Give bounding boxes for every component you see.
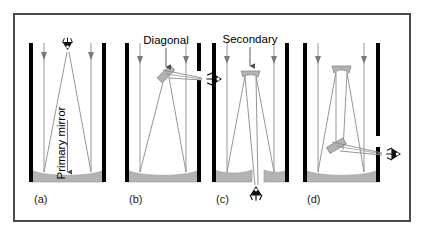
- incoming-ray-arrowhead-a-2: [88, 52, 94, 60]
- incoming-ray-arrowhead-b-1: [137, 56, 143, 64]
- tube-wall-left-d: [303, 43, 307, 182]
- converging-ray-c-left: [227, 76, 245, 172]
- incoming-ray-arrowhead-a-1: [41, 52, 47, 60]
- panel-c-cassegrain-focus: Secondary (c): [212, 33, 289, 205]
- converging-ray-b-right: [168, 72, 186, 172]
- tube-wall-right-upper-b: [197, 43, 201, 71]
- primary-mirror-label: Primary mirror: [55, 106, 67, 179]
- secondary-mirror-c: [241, 71, 260, 77]
- converging-ray-d-left: [318, 72, 336, 172]
- primary-mirror-b: [127, 170, 199, 182]
- reflected-ray-c-right: [256, 77, 258, 185]
- primary-mirror-c-right: [264, 170, 288, 182]
- tube-wall-right-c: [285, 43, 289, 182]
- incoming-ray-arrowhead-d-1: [315, 56, 321, 64]
- incoming-ray-arrowhead-d-2: [361, 56, 367, 64]
- incoming-ray-arrowhead-c-1: [224, 56, 230, 64]
- eye-icon-a: [63, 38, 73, 50]
- panel-a-prime-focus: Primary mirror (a): [29, 38, 106, 205]
- diagram-canvas: Primary mirror (a): [0, 0, 425, 236]
- panel-b-newtonian-focus: Diagonal (b): [125, 34, 222, 205]
- panel-d-coude-focus: (d): [303, 43, 401, 205]
- reflected-ray-c-left: [245, 77, 255, 185]
- tube-wall-left-a: [29, 43, 33, 182]
- tube-wall-left-c: [212, 43, 216, 182]
- incoming-ray-arrowhead-c-2: [271, 56, 277, 64]
- tube-wall-right-upper-d: [376, 43, 380, 136]
- primary-mirror-c-left: [214, 170, 252, 182]
- panel-caption-b: (b): [129, 193, 142, 205]
- secondary-label: Secondary: [223, 33, 278, 45]
- diagonal-label: Diagonal: [143, 34, 188, 46]
- incoming-ray-arrowhead-b-2: [183, 56, 189, 64]
- tube-wall-right-a: [102, 43, 106, 182]
- converging-ray-b-left: [140, 74, 165, 172]
- converging-ray-c-right: [256, 76, 274, 172]
- panel-caption-a: (a): [34, 193, 47, 205]
- telescope-focus-diagram: Primary mirror (a): [0, 0, 425, 236]
- eye-icon-d: [386, 148, 401, 160]
- panel-caption-d: (d): [307, 193, 320, 205]
- tube-wall-left-b: [125, 43, 129, 182]
- panel-caption-c: (c): [216, 193, 229, 205]
- secondary-mirror-d: [332, 66, 351, 73]
- tube-wall-right-lower-b: [197, 80, 201, 182]
- converging-ray-d-right: [347, 72, 364, 172]
- primary-mirror-d: [305, 170, 378, 182]
- eye-icon-c: [250, 186, 262, 201]
- converging-ray-a-right: [69, 52, 91, 172]
